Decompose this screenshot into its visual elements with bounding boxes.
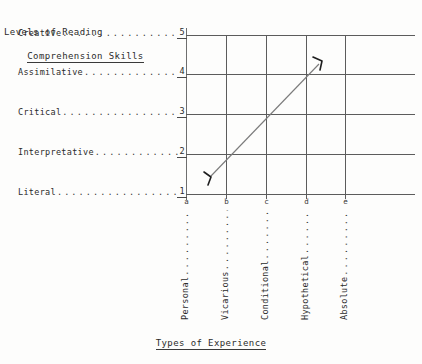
dot-leader: ........................................… — [57, 186, 178, 198]
y-axis-tick-2: 2 — [177, 146, 187, 158]
gridline-vertical-e — [345, 35, 346, 199]
y-axis-label-interpretative: Interpretative — [18, 146, 94, 158]
y-axis-label-row-interpretative: Interpretative .........................… — [18, 146, 178, 158]
x-axis-label-conditional: Conditional ............................… — [261, 210, 270, 320]
gridline-vertical-b — [226, 35, 227, 199]
y-axis-tick-3: 3 — [177, 106, 187, 118]
y-axis-label-literal: Literal — [18, 186, 56, 198]
y-axis-tick-5: 5 — [177, 27, 187, 39]
gridline-vertical-c — [266, 35, 267, 199]
gridline-horizontal-4 — [186, 74, 415, 75]
x-axis-title: Types of Experience — [0, 338, 422, 348]
y-axis-label-row-critical: Critical ...............................… — [18, 106, 178, 118]
y-axis-label-creative: Creative — [18, 27, 61, 39]
x-axis-label-text: Hypothetical — [301, 255, 310, 320]
gridline-horizontal-2 — [186, 154, 415, 155]
dot-leader: ........................................… — [62, 106, 178, 118]
x-axis-tick-c: c — [262, 197, 271, 206]
x-axis-label-personal: Personal ...............................… — [181, 210, 190, 320]
gridline-horizontal-5 — [186, 35, 415, 36]
dot-leader: ........................................… — [301, 210, 310, 254]
x-axis-label-text: Absolute — [340, 277, 349, 320]
dot-leader: ........................................… — [95, 146, 178, 158]
x-axis-label-text: Personal — [181, 277, 190, 320]
y-axis-label-row-assimilative: Assimilative ...........................… — [18, 66, 178, 78]
x-axis-title-text: Types of Experience — [156, 338, 267, 350]
x-axis-tick-e: e — [341, 197, 350, 206]
gridline-horizontal-1 — [186, 194, 415, 195]
x-axis-tick-a: a — [182, 197, 191, 206]
dot-leader: ........................................… — [221, 210, 230, 270]
x-axis-label-text: Conditional — [261, 260, 270, 320]
dot-leader: ........................................… — [340, 210, 349, 276]
x-axis-label-text: Vicarious — [221, 271, 230, 320]
dot-leader: ........................................… — [181, 210, 190, 276]
gridline-vertical-d — [306, 35, 307, 199]
diagram-canvas: Levels of Reading Comprehension Skills C… — [0, 0, 422, 364]
dot-leader: ........................................… — [62, 27, 178, 39]
x-axis-tick-b: b — [222, 197, 231, 206]
y-axis-tick-4: 4 — [177, 66, 187, 78]
y-axis-label-critical: Critical — [18, 106, 61, 118]
y-axis-label-assimilative: Assimilative — [18, 66, 83, 78]
y-axis-label-row-literal: Literal ................................… — [18, 186, 178, 198]
x-axis-tick-d: d — [302, 197, 311, 206]
dot-leader: ........................................… — [261, 210, 270, 259]
x-axis-label-absolute: Absolute ...............................… — [340, 210, 349, 320]
dot-leader: ........................................… — [84, 66, 178, 78]
plot-area — [0, 0, 422, 364]
x-axis-label-vicarious: Vicarious ..............................… — [221, 210, 230, 320]
gridline-horizontal-3 — [186, 114, 415, 115]
y-axis-label-row-creative: Creative ...............................… — [18, 27, 178, 39]
x-axis-label-hypothetical: Hypothetical ...........................… — [301, 210, 310, 320]
